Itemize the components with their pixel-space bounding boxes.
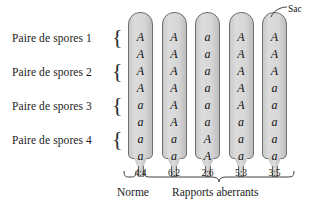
spore-allele: a xyxy=(162,133,187,145)
spore-allele: A xyxy=(128,48,153,60)
spore-allele: a xyxy=(262,99,287,111)
spore-allele: A xyxy=(162,31,187,43)
spore-allele: a xyxy=(229,150,254,162)
spore-allele: a xyxy=(162,150,187,162)
ascus-ratio-label: 2:6 xyxy=(191,168,225,178)
spore-allele: a xyxy=(229,116,254,128)
spore-pair-brace-2: { xyxy=(112,60,123,82)
spore-allele: a xyxy=(262,116,287,128)
spore-ratio-figure: Paire de spores 1 Paire de spores 2 Pair… xyxy=(0,0,319,209)
spore-pair-brace-1: { xyxy=(112,26,123,48)
spore-allele: a xyxy=(195,48,220,60)
ascus-ratio-label: 3:5 xyxy=(258,168,292,178)
ascus-ratio-label: 6:2 xyxy=(157,168,191,178)
group-label-normal: Norme xyxy=(117,186,149,198)
spore-allele: A xyxy=(229,82,254,94)
spore-allele: A xyxy=(162,99,187,111)
spore-allele: a xyxy=(195,31,220,43)
spore-allele: a xyxy=(195,65,220,77)
spore-allele: A xyxy=(128,65,153,77)
spore-allele: A xyxy=(162,82,187,94)
spore-pair-label-3: Paire de spores 3 xyxy=(12,100,92,112)
spore-allele: A xyxy=(162,65,187,77)
spore-allele: A xyxy=(162,48,187,60)
spore-pair-brace-4: { xyxy=(112,128,123,150)
spore-allele: a xyxy=(262,150,287,162)
group-label-aberrant: Rapports aberrants xyxy=(172,186,259,198)
spore-allele: a xyxy=(128,99,153,111)
ascus-ratio-label: 4:4 xyxy=(124,168,158,178)
spore-allele: A xyxy=(128,31,153,43)
spore-allele: a xyxy=(229,133,254,145)
spore-pair-label-2: Paire de spores 2 xyxy=(12,66,92,78)
spore-allele: A xyxy=(128,82,153,94)
spore-allele: A xyxy=(229,65,254,77)
spore-allele: a xyxy=(262,133,287,145)
spore-allele: A xyxy=(229,48,254,60)
spore-allele: a xyxy=(195,116,220,128)
spore-pair-label-1: Paire de spores 1 xyxy=(12,32,92,44)
spore-allele: A xyxy=(195,133,220,145)
spore-allele: A xyxy=(262,48,287,60)
spore-pair-brace-3: { xyxy=(112,94,123,116)
spore-allele: a xyxy=(262,82,287,94)
ascus-ratio-label: 5:3 xyxy=(224,168,258,178)
spore-allele: A xyxy=(262,65,287,77)
spore-allele: a xyxy=(128,133,153,145)
spore-allele: a xyxy=(195,99,220,111)
spore-allele: A xyxy=(195,150,220,162)
spore-allele: a xyxy=(195,82,220,94)
spore-allele: A xyxy=(162,116,187,128)
spore-allele: A xyxy=(229,31,254,43)
spore-allele: a xyxy=(128,116,153,128)
spore-allele: A xyxy=(229,99,254,111)
spore-allele: A xyxy=(262,31,287,43)
spore-allele: a xyxy=(128,150,153,162)
sac-callout-label: Sac xyxy=(288,4,302,14)
spore-pair-label-4: Paire de spores 4 xyxy=(12,134,92,146)
